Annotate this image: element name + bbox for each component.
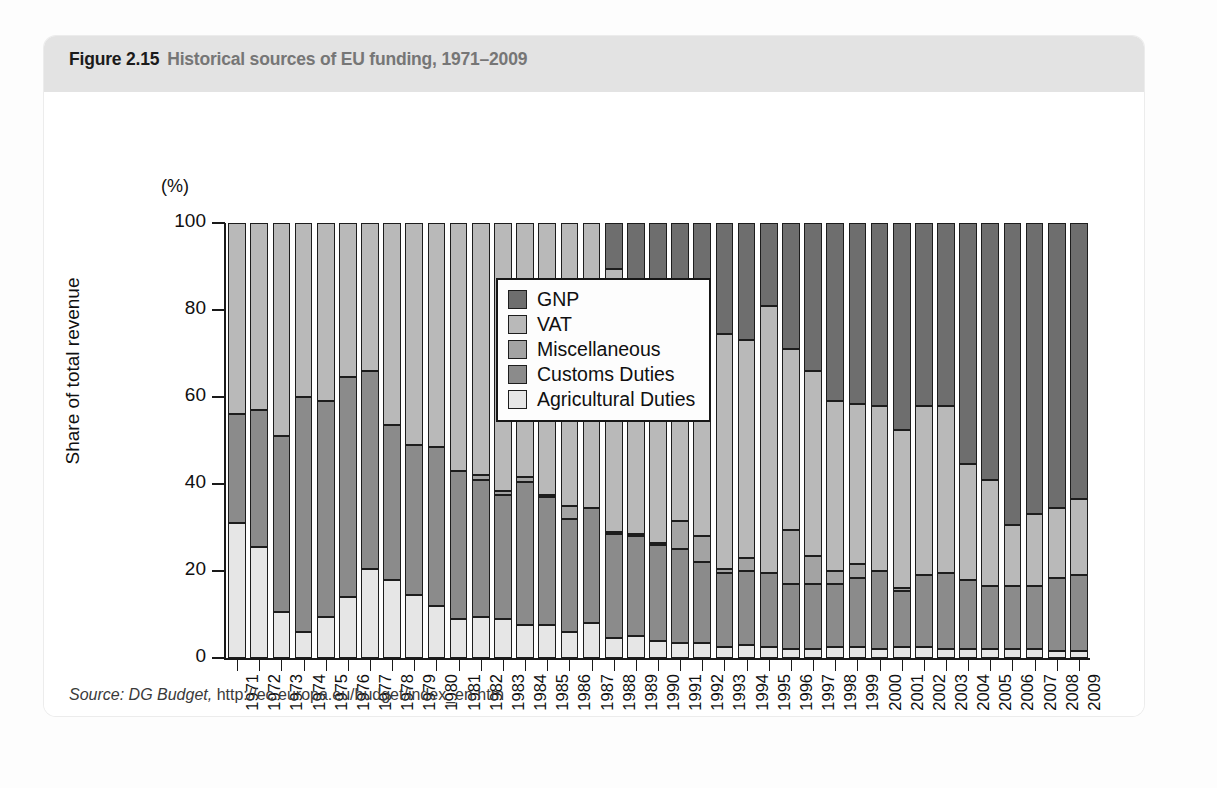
bar-column <box>273 223 291 658</box>
bar-segment <box>1048 508 1066 578</box>
y-tick-label: 20 <box>154 558 206 580</box>
y-axis-unit: (%) <box>161 176 189 197</box>
x-tick-label: 1992 <box>708 674 727 711</box>
x-tick-mark <box>680 660 681 671</box>
bar-segment <box>1070 651 1088 658</box>
bar-segment <box>826 647 844 658</box>
x-tick-mark <box>259 660 260 671</box>
y-tick-label: 40 <box>154 471 206 493</box>
x-tick-label: 1983 <box>509 674 528 711</box>
x-tick-label: 1988 <box>620 674 639 711</box>
bar-segment <box>760 647 778 658</box>
bar-segment <box>671 643 689 658</box>
bar-segment <box>1070 499 1088 575</box>
bar-column <box>1048 223 1066 658</box>
bar-column <box>1004 223 1022 658</box>
bar-column <box>250 223 268 658</box>
bar-segment <box>339 597 357 658</box>
x-tick-mark <box>392 660 393 671</box>
bar-segment <box>893 647 911 658</box>
x-tick-label: 1993 <box>730 674 749 711</box>
legend-item: Agricultural Duties <box>508 387 695 412</box>
bar-segment <box>339 223 357 377</box>
bar-segment <box>782 530 800 584</box>
bar-segment <box>826 584 844 647</box>
bar-segment <box>782 349 800 530</box>
x-tick-label: 1984 <box>531 674 550 711</box>
bar-segment <box>1048 578 1066 652</box>
bar-column <box>295 223 313 658</box>
bar-segment <box>317 617 335 658</box>
bar-segment <box>295 632 313 658</box>
x-tick-mark <box>658 660 659 671</box>
bar-column <box>1026 223 1044 658</box>
x-tick-label: 1991 <box>686 674 705 711</box>
bar-segment <box>826 223 844 401</box>
bar-column <box>849 223 867 658</box>
bar-segment <box>716 569 734 573</box>
bar-segment <box>649 223 667 286</box>
bar-segment <box>627 636 645 658</box>
bar-segment <box>915 647 933 658</box>
bar-segment <box>561 519 579 632</box>
bar-segment <box>804 556 822 584</box>
bar-segment <box>583 508 601 623</box>
chart-legend: GNPVATMiscellaneousCustoms DutiesAgricul… <box>496 278 711 422</box>
bar-segment <box>871 223 889 406</box>
bar-segment <box>893 591 911 648</box>
bar-segment <box>361 223 379 371</box>
x-tick-mark <box>835 660 836 671</box>
figure-card: Figure 2.15Historical sources of EU fund… <box>44 36 1144 716</box>
bar-segment <box>1070 223 1088 499</box>
bar-segment <box>1004 223 1022 525</box>
bar-segment <box>494 491 512 495</box>
figure-body: (%) Share of total revenue 020406080100 … <box>44 92 1144 716</box>
x-tick-label: 1996 <box>797 674 816 711</box>
bar-segment <box>250 223 268 410</box>
bar-segment <box>273 612 291 658</box>
source-url: http://ec.europa.eu/budget/index_en.htm <box>217 686 504 703</box>
x-tick-label: 2008 <box>1063 674 1082 711</box>
x-tick-mark <box>414 660 415 671</box>
bar-segment <box>494 619 512 658</box>
x-tick-label: 2001 <box>908 674 927 711</box>
bar-segment <box>605 532 623 534</box>
bar-segment <box>450 223 468 471</box>
bar-column <box>782 223 800 658</box>
x-tick-mark <box>436 660 437 671</box>
x-tick-mark <box>592 660 593 671</box>
x-tick-label: 2007 <box>1041 674 1060 711</box>
x-tick-label: 2009 <box>1085 674 1104 711</box>
bar-segment <box>450 471 468 619</box>
x-tick-mark <box>281 660 282 671</box>
bar-segment <box>981 586 999 649</box>
x-tick-mark <box>304 660 305 671</box>
bar-segment <box>782 223 800 349</box>
x-tick-label: 1994 <box>753 674 772 711</box>
x-tick-label: 2004 <box>974 674 993 711</box>
legend-label: GNP <box>537 288 579 311</box>
x-tick-label: 1999 <box>863 674 882 711</box>
x-tick-mark <box>370 660 371 671</box>
bar-segment <box>959 464 977 579</box>
bar-segment <box>937 649 955 658</box>
bar-segment <box>627 536 645 636</box>
legend-item: VAT <box>508 312 695 337</box>
bar-segment <box>339 377 357 597</box>
bar-segment <box>716 647 734 658</box>
bar-segment <box>317 401 335 616</box>
legend-swatch-icon <box>508 390 527 409</box>
x-tick-label: 1998 <box>841 674 860 711</box>
bar-segment <box>826 571 844 584</box>
legend-swatch-icon <box>508 365 527 384</box>
bar-segment <box>760 573 778 647</box>
x-tick-mark <box>614 660 615 671</box>
bar-segment <box>937 573 955 649</box>
bar-segment <box>738 571 756 645</box>
x-tick-label: 2003 <box>952 674 971 711</box>
y-tick-mark <box>212 570 225 572</box>
x-tick-mark <box>503 660 504 671</box>
x-tick-mark <box>702 660 703 671</box>
bar-segment <box>405 445 423 595</box>
x-tick-mark <box>348 660 349 671</box>
